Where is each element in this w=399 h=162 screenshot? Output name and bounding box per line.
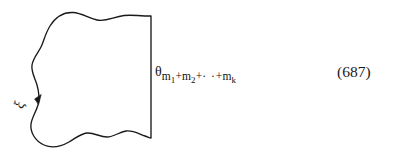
subscript-m-first: m xyxy=(162,70,171,82)
closed-contour-path xyxy=(31,12,151,146)
equation-number: (687) xyxy=(337,63,371,81)
subscript-m-second: m xyxy=(182,70,191,82)
subscript-m-last: m xyxy=(222,70,231,82)
subscript-ellipsis: · · xyxy=(202,70,216,82)
subscript-index-last: k xyxy=(232,75,237,85)
figure-container: ξ θm1+m2+· ·+mk (687) xyxy=(0,0,399,162)
boundary-theta-label: θm1+m2+· ·+mk xyxy=(155,62,236,85)
theta-symbol: θ xyxy=(155,64,162,79)
